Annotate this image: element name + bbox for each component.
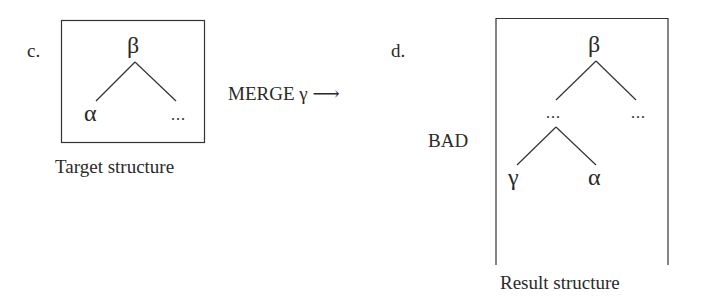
panel-d-label: d.: [391, 40, 405, 62]
arrow-right-icon: ⟶: [312, 83, 339, 104]
node-beta: β: [588, 31, 600, 58]
node-ellipsis-left: ...: [546, 104, 561, 122]
node-alpha: α: [588, 164, 601, 191]
node-ellipsis: ...: [171, 106, 186, 124]
panel-c-label: c.: [27, 40, 40, 62]
node-alpha: α: [84, 100, 97, 127]
result-caption: Result structure: [500, 272, 620, 294]
node-gamma: γ: [508, 164, 519, 191]
merge-label: MERGE γ ⟶: [228, 82, 340, 105]
node-beta: β: [127, 32, 139, 59]
node-ellipsis-right: ...: [631, 104, 646, 122]
bad-label: BAD: [428, 130, 468, 152]
merge-text: MERGE γ: [228, 83, 308, 104]
target-caption: Target structure: [55, 156, 174, 178]
result-box: [496, 19, 668, 266]
